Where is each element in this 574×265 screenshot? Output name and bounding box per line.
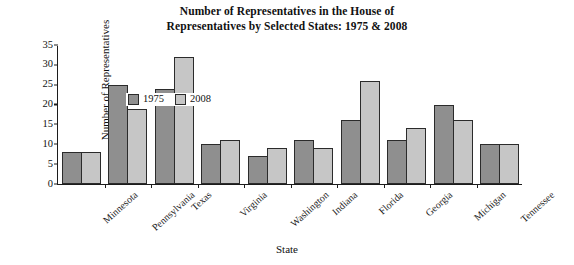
bar-2008-florida xyxy=(360,81,380,184)
chart-title-line-2: Representatives by Selected States: 1975… xyxy=(0,19,574,34)
x-axis-label-indiana: Indiana xyxy=(330,189,360,217)
x-axis-tick-mark xyxy=(337,184,338,188)
bar-1975-washington xyxy=(248,156,268,184)
x-axis-tick-mark xyxy=(198,184,199,188)
x-axis-label-pennsylvania: Pennsylvania xyxy=(150,189,197,233)
x-axis-label-washington: Washington xyxy=(288,189,331,229)
x-axis-label-minnesota: Minnesota xyxy=(100,189,139,225)
plot-frame: Number of Representatives 19752008 05101… xyxy=(57,46,522,185)
x-axis-label-georgia: Georgia xyxy=(423,189,454,219)
bar-1975-minnesota xyxy=(62,152,82,184)
plot-area xyxy=(58,46,522,184)
bar-1975-indiana xyxy=(294,140,314,184)
y-axis-tick-mark xyxy=(54,124,58,125)
legend-item-2008: 2008 xyxy=(175,94,211,105)
bar-2008-tennessee xyxy=(499,144,519,184)
bar-1975-georgia xyxy=(387,140,407,184)
y-axis-tick-mark xyxy=(54,84,58,85)
bar-2008-indiana xyxy=(313,148,333,184)
bar-group xyxy=(291,46,338,184)
bar-group xyxy=(105,46,152,184)
y-axis-tick-mark xyxy=(54,163,58,164)
bar-group xyxy=(430,46,477,184)
chart-title: Number of Representatives in the House o… xyxy=(0,4,574,34)
x-axis-tick-mark xyxy=(477,184,478,188)
x-axis-label-tennessee: Tennessee xyxy=(519,189,557,225)
bar-group xyxy=(151,46,198,184)
y-axis-tick-mark xyxy=(54,104,58,105)
y-axis-tick-mark xyxy=(54,183,58,184)
bar-group xyxy=(337,46,384,184)
bar-2008-virginia xyxy=(220,140,240,184)
x-axis-tick-mark xyxy=(430,184,431,188)
chart-title-line-1: Number of Representatives in the House o… xyxy=(0,4,574,19)
bar-group xyxy=(58,46,105,184)
legend-label-1975: 1975 xyxy=(143,94,164,105)
x-axis-tick-mark xyxy=(244,184,245,188)
y-axis-tick-mark xyxy=(54,44,58,45)
bar-2008-texas xyxy=(174,57,194,184)
bar-2008-michigan xyxy=(453,120,473,184)
bar-group xyxy=(244,46,291,184)
x-axis-label-florida: Florida xyxy=(376,189,405,217)
bar-1975-virginia xyxy=(201,144,221,184)
chart-legend: 19752008 xyxy=(126,93,213,106)
bar-group xyxy=(477,46,524,184)
bar-1975-michigan xyxy=(434,105,454,184)
bar-group xyxy=(384,46,431,184)
bar-1975-tennessee xyxy=(480,144,500,184)
y-axis-tick-mark xyxy=(54,144,58,145)
y-axis-tick-mark xyxy=(54,64,58,65)
legend-swatch-2008 xyxy=(175,94,186,105)
x-axis-tick-mark xyxy=(151,184,152,188)
bar-1975-florida xyxy=(341,120,361,184)
x-axis-label-virginia: Virginia xyxy=(237,189,269,219)
bar-2008-washington xyxy=(267,148,287,184)
bar-group xyxy=(198,46,245,184)
x-axis-title: State xyxy=(0,243,574,255)
legend-label-2008: 2008 xyxy=(190,94,211,105)
legend-swatch-1975 xyxy=(128,94,139,105)
bar-chart: Number of Representatives in the House o… xyxy=(0,0,574,265)
x-axis-label-michigan: Michigan xyxy=(471,189,507,223)
bar-2008-georgia xyxy=(406,128,426,184)
legend-item-1975: 1975 xyxy=(128,94,164,105)
bar-2008-minnesota xyxy=(81,152,101,184)
bar-2008-pennsylvania xyxy=(127,109,147,184)
x-axis-tick-mark xyxy=(105,184,106,188)
x-axis-tick-mark xyxy=(291,184,292,188)
x-axis-tick-mark xyxy=(384,184,385,188)
